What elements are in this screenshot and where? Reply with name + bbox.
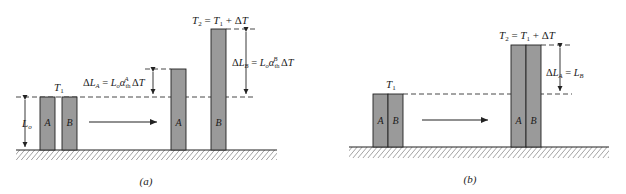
bar-a-final: [171, 69, 186, 150]
t1-label-b: T1: [386, 78, 396, 92]
panel-a: T1 A B Lo A B T2 = T1 + ΔT ΔLA = LoαthA …: [16, 14, 295, 188]
thermal-expansion-diagram: T1 A B Lo A B T2 = T1 + ΔT ΔLA = LoαthA …: [0, 0, 626, 194]
ground-b: [349, 147, 609, 158]
t2-label-a: T2 = T1 + ΔT: [192, 14, 249, 28]
bar-b-final-label: B: [215, 117, 221, 128]
bar-a-initial-label: A: [43, 117, 51, 128]
t1-label-a: T1: [54, 81, 64, 95]
caption-b: (b): [464, 173, 477, 186]
bar-a-final-label: A: [174, 117, 182, 128]
bar-b-final: [211, 29, 226, 150]
delta-lb-formula: ΔLB = LoαthB ΔT: [232, 55, 295, 69]
bar-b-final-label-b: B: [530, 115, 536, 126]
t2-label-b: T2 = T1 + ΔT: [499, 29, 556, 43]
ground-a: [16, 150, 277, 160]
caption-a: (a): [140, 175, 153, 188]
bar-b-initial-label-b: B: [392, 115, 398, 126]
bar-b-final-b: [526, 45, 541, 147]
panel-b: T1 A B A B T2 = T1 + ΔT ΔLA = LB (b): [349, 29, 609, 186]
bar-a-final-b: [511, 45, 526, 147]
delta-la-formula: ΔLA = LoαthA ΔT: [83, 75, 146, 89]
bar-a-initial-label-b: A: [376, 115, 384, 126]
bar-b-initial-label: B: [66, 117, 72, 128]
lo-label: Lo: [21, 117, 32, 131]
delta-formula-b: ΔLA = LB: [546, 67, 584, 79]
bar-a-final-label-b: A: [514, 115, 522, 126]
